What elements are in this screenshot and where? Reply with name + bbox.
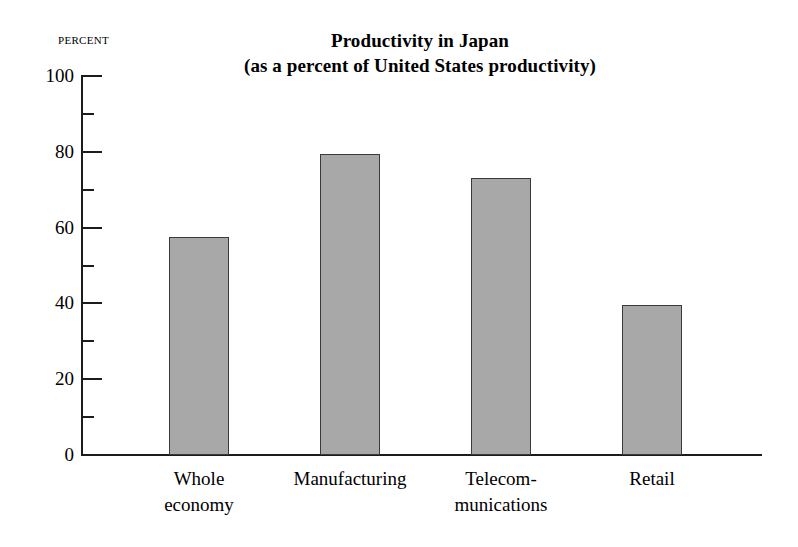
y-tick-label: 100 [28, 66, 74, 85]
y-tick-label: 40 [28, 293, 74, 312]
y-tick-label: 20 [28, 369, 74, 388]
x-axis-category-label-line: economy [99, 492, 299, 518]
chart-title: Productivity in Japan (as a percent of U… [210, 28, 630, 78]
y-tick-major [83, 378, 102, 380]
y-tick-major [83, 302, 102, 304]
x-axis-category-label-line: munications [401, 492, 601, 518]
y-axis-label: Percent [58, 30, 109, 48]
y-tick-label: 60 [28, 218, 74, 237]
bar [622, 305, 682, 455]
y-tick-minor [83, 340, 94, 342]
y-tick-label: 0 [28, 445, 74, 464]
y-tick-major [83, 75, 102, 77]
y-tick-minor [83, 113, 94, 115]
bar-chart: Productivity in Japan (as a percent of U… [0, 0, 798, 547]
y-tick-major [83, 227, 102, 229]
chart-title-line-1: Productivity in Japan [331, 30, 509, 51]
y-tick-minor [83, 416, 94, 418]
x-axis-category-label-line: Retail [552, 466, 752, 492]
y-tick-label: 80 [28, 142, 74, 161]
y-tick-major [83, 454, 102, 456]
y-tick-minor [83, 265, 94, 267]
y-tick-major [83, 151, 102, 153]
bar [320, 154, 380, 455]
chart-title-line-2: (as a percent of United States productiv… [210, 53, 630, 78]
bar [169, 237, 229, 455]
y-tick-minor [83, 189, 94, 191]
x-axis-category-label: Retail [552, 466, 752, 492]
bar [471, 178, 531, 455]
